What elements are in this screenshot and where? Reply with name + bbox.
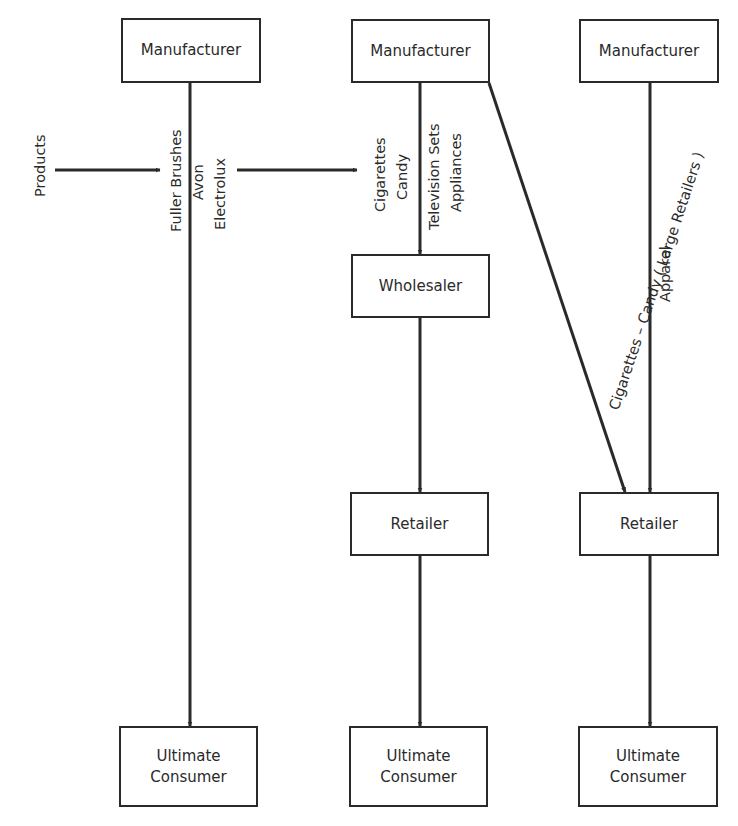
manufacturer-box-3: Manufacturer — [579, 19, 719, 83]
wholesaler-box: Wholesaler — [351, 254, 490, 318]
manufacturer-box-1: Manufacturer — [121, 18, 261, 83]
appliances-label: Appliances — [448, 133, 464, 212]
avon-label: Avon — [190, 164, 206, 200]
ultimate-consumer-box-3: Ultimate Consumer — [578, 726, 718, 807]
box-label: Manufacturer — [141, 40, 242, 61]
fuller-brushes-label: Fuller Brushes — [168, 129, 184, 232]
cigarettes-label: Cigarettes — [372, 137, 388, 212]
retailer-box-2: Retailer — [350, 492, 489, 556]
mfr2-to-retailer3-arrow — [489, 83, 625, 492]
connector-lines — [0, 0, 738, 826]
box-label: Retailer — [391, 514, 449, 535]
electrolux-label: Electrolux — [212, 158, 228, 230]
box-label: Manufacturer — [370, 41, 471, 62]
candy-label: Candy — [394, 154, 410, 200]
ultimate-consumer-box-2: Ultimate Consumer — [349, 726, 488, 807]
box-label: Retailer — [620, 514, 678, 535]
box-label: Ultimate Consumer — [380, 746, 457, 788]
television-sets-label: Television Sets — [426, 124, 442, 231]
box-label: Manufacturer — [599, 41, 700, 62]
box-label: Ultimate Consumer — [610, 746, 687, 788]
retailer-box-3: Retailer — [579, 492, 719, 556]
box-label: Ultimate Consumer — [150, 746, 227, 788]
box-label: Wholesaler — [379, 276, 462, 297]
ultimate-consumer-box-1: Ultimate Consumer — [119, 726, 258, 807]
manufacturer-box-2: Manufacturer — [351, 19, 490, 83]
apparel-label: Apparel — [657, 246, 673, 302]
products-label: Products — [32, 134, 48, 197]
